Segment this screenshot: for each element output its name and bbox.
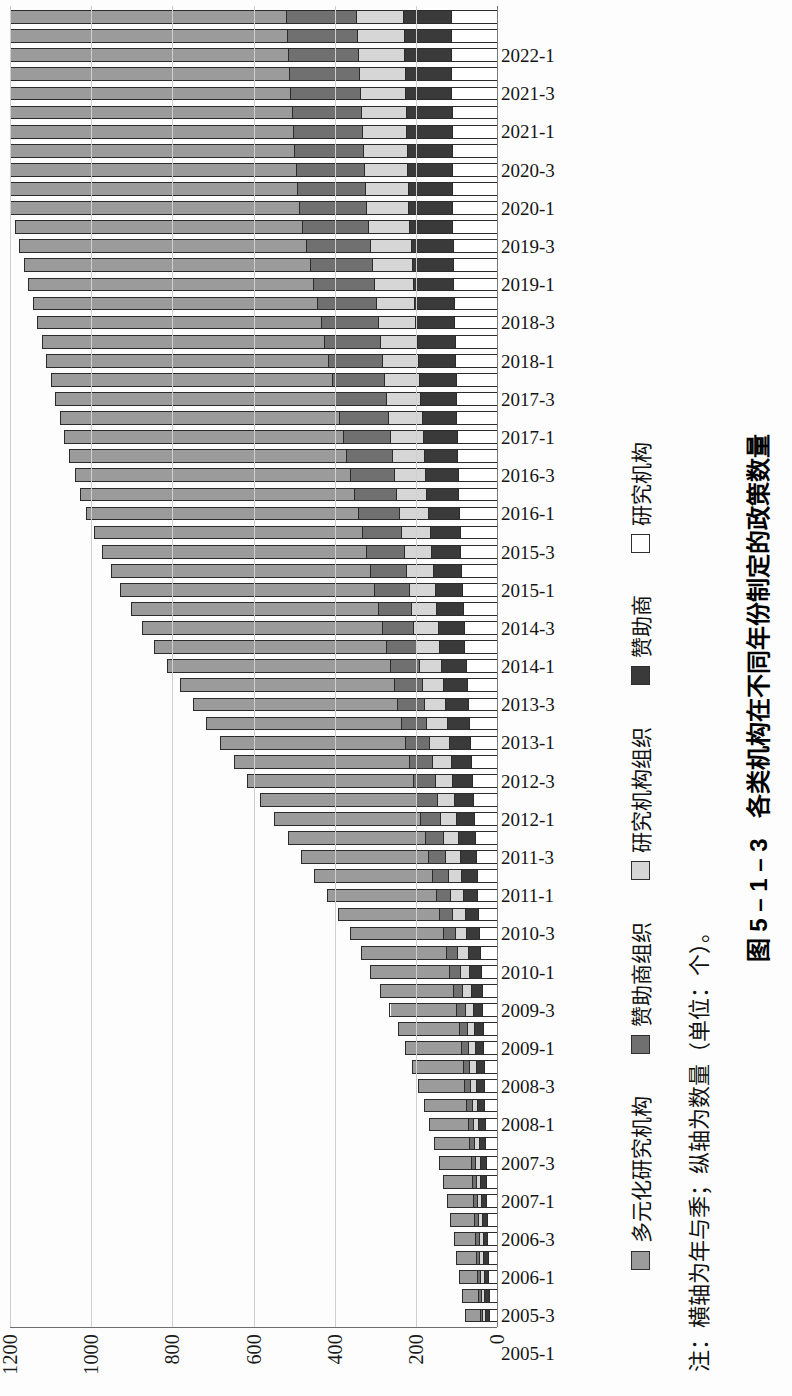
bar-segment bbox=[377, 298, 415, 310]
stacked-bar[interactable] bbox=[60, 411, 497, 425]
stacked-bar[interactable] bbox=[120, 583, 497, 597]
stacked-bar[interactable] bbox=[94, 526, 497, 540]
legend-item-sponsor[interactable]: 赞助商 bbox=[625, 595, 655, 685]
bar-segment bbox=[430, 1119, 468, 1131]
stacked-bar[interactable] bbox=[429, 1118, 497, 1132]
stacked-bar[interactable] bbox=[42, 335, 497, 349]
bar-segment bbox=[487, 1195, 497, 1207]
bar-segment bbox=[261, 794, 417, 806]
stacked-bar[interactable] bbox=[33, 297, 497, 311]
stacked-bar[interactable] bbox=[443, 1175, 497, 1189]
bar-segment bbox=[463, 985, 472, 997]
bar-segment bbox=[288, 30, 359, 42]
bar-segment bbox=[480, 928, 497, 940]
stacked-bar[interactable] bbox=[439, 1156, 497, 1170]
stacked-bar[interactable] bbox=[380, 984, 497, 998]
bar-segment bbox=[420, 374, 456, 386]
bar-segment bbox=[441, 813, 457, 825]
gridline bbox=[416, 6, 417, 1327]
bar-segment bbox=[413, 259, 454, 271]
stacked-bar[interactable] bbox=[234, 755, 497, 769]
stacked-bar[interactable] bbox=[102, 545, 497, 559]
bar-segment bbox=[427, 718, 447, 730]
stacked-bar[interactable] bbox=[86, 507, 497, 521]
x-tick-slot bbox=[497, 524, 617, 543]
legend-item-sponsor-organization[interactable]: 赞助商组织 bbox=[625, 922, 655, 1054]
stacked-bar[interactable] bbox=[314, 869, 497, 883]
bar-segment bbox=[389, 412, 422, 424]
bar-segment bbox=[475, 1023, 484, 1035]
legend-item-research-institution[interactable]: 研究机构 bbox=[625, 442, 655, 553]
bar-segment bbox=[440, 641, 465, 653]
stacked-bar[interactable] bbox=[80, 488, 497, 502]
stacked-bar[interactable] bbox=[412, 1060, 497, 1074]
stacked-bar[interactable] bbox=[434, 1137, 497, 1151]
stacked-bar[interactable] bbox=[465, 1309, 497, 1323]
x-tick-slot bbox=[497, 371, 617, 390]
stacked-bar[interactable] bbox=[274, 812, 497, 826]
stacked-bar[interactable] bbox=[180, 679, 497, 693]
stacked-bar[interactable] bbox=[361, 946, 497, 960]
stacked-bar[interactable] bbox=[193, 698, 497, 712]
stacked-bar[interactable] bbox=[154, 640, 497, 654]
figure-container: 020040060080010001200 2005-12005-32006-1… bbox=[0, 0, 792, 1396]
stacked-bar[interactable] bbox=[288, 831, 497, 845]
bar-segment bbox=[425, 450, 458, 462]
bar-segment bbox=[466, 1004, 474, 1016]
bar-segment bbox=[207, 718, 402, 730]
stacked-bar[interactable] bbox=[454, 1232, 497, 1246]
stacked-bar[interactable] bbox=[206, 717, 497, 731]
legend-swatch-icon bbox=[631, 666, 650, 685]
stacked-bar[interactable] bbox=[142, 621, 497, 635]
bar-segment bbox=[52, 374, 333, 386]
stacked-bar[interactable] bbox=[75, 468, 497, 482]
stacked-bar[interactable] bbox=[51, 373, 497, 387]
stacked-bar[interactable] bbox=[301, 850, 497, 864]
stacked-bar[interactable] bbox=[220, 736, 497, 750]
x-tick-slot bbox=[497, 448, 617, 467]
stacked-bar[interactable] bbox=[28, 278, 497, 292]
stacked-bar[interactable] bbox=[111, 564, 497, 578]
bar-segment bbox=[436, 584, 464, 596]
stacked-bar[interactable] bbox=[15, 220, 497, 234]
stacked-bar[interactable] bbox=[338, 908, 497, 922]
bar-segment bbox=[452, 30, 497, 42]
legend-item-diversified-research-institution[interactable]: 多元化研究机构 bbox=[625, 1096, 655, 1270]
x-tick-slot bbox=[497, 562, 617, 581]
bar-segment bbox=[462, 1042, 469, 1054]
bar-segment bbox=[450, 966, 460, 978]
stacked-bar[interactable] bbox=[24, 258, 497, 272]
stacked-bar[interactable] bbox=[37, 316, 497, 330]
stacked-bar[interactable] bbox=[450, 1213, 497, 1227]
stacked-bar[interactable] bbox=[398, 1022, 497, 1036]
stacked-bar[interactable] bbox=[260, 793, 497, 807]
stacked-bar[interactable] bbox=[462, 1290, 497, 1304]
stacked-bar[interactable] bbox=[389, 1003, 497, 1017]
stacked-bar[interactable] bbox=[456, 1251, 497, 1265]
stacked-bar[interactable] bbox=[350, 927, 497, 941]
bar-segment bbox=[464, 890, 479, 902]
bar-segment bbox=[65, 431, 343, 443]
stacked-bar[interactable] bbox=[370, 965, 497, 979]
stacked-bar[interactable] bbox=[55, 392, 497, 406]
stacked-bar[interactable] bbox=[167, 659, 497, 673]
stacked-bar[interactable] bbox=[131, 602, 497, 616]
stacked-bar[interactable] bbox=[418, 1079, 497, 1093]
stacked-bar[interactable] bbox=[405, 1041, 497, 1055]
stacked-bar[interactable] bbox=[64, 430, 497, 444]
stacked-bar[interactable] bbox=[327, 889, 497, 903]
bar-segment bbox=[484, 1042, 497, 1054]
bar-segment bbox=[11, 126, 294, 138]
stacked-bar[interactable] bbox=[424, 1099, 497, 1113]
bar-segment bbox=[478, 1100, 485, 1112]
stacked-bar[interactable] bbox=[459, 1270, 497, 1284]
stacked-bar[interactable] bbox=[247, 774, 497, 788]
legend-item-research-institution-organization[interactable]: 研究机构组织 bbox=[625, 727, 655, 880]
bar-segment bbox=[444, 680, 467, 692]
stacked-bar[interactable] bbox=[46, 354, 497, 368]
bar-segment bbox=[404, 11, 452, 23]
bar-segment bbox=[367, 202, 409, 214]
stacked-bar[interactable] bbox=[69, 449, 497, 463]
bar-segment bbox=[367, 546, 405, 558]
stacked-bar[interactable] bbox=[447, 1194, 497, 1208]
